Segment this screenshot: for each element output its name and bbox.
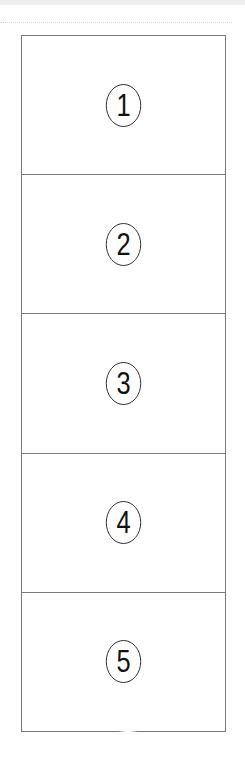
grid-cell-3: 3 xyxy=(22,314,225,453)
circled-number-3: 3 xyxy=(106,362,141,405)
cell-number-text: 4 xyxy=(116,507,130,538)
circled-number-2: 2 xyxy=(106,223,141,266)
grid-cell-5: 5 xyxy=(22,593,225,731)
cell-number-text: 3 xyxy=(116,368,130,399)
grid-cell-1: 1 xyxy=(22,36,225,175)
cell-number-text: 2 xyxy=(116,229,130,260)
circled-number-5: 5 xyxy=(106,640,141,683)
grid-cell-4: 4 xyxy=(22,454,225,593)
header-dotted-rule xyxy=(0,22,232,23)
cell-number-text: 1 xyxy=(116,90,130,121)
cell-number-text: 5 xyxy=(116,646,130,677)
grid-cell-2: 2 xyxy=(22,175,225,314)
numbered-grid: 1 2 3 4 5 xyxy=(21,35,226,732)
bottom-border-gap xyxy=(118,729,138,734)
circled-number-1: 1 xyxy=(106,84,141,127)
circled-number-4: 4 xyxy=(106,501,141,544)
top-margin-strip xyxy=(0,0,245,5)
